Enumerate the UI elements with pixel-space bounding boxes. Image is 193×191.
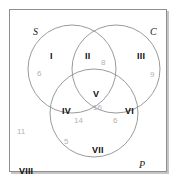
set-label-s: S — [33, 27, 38, 37]
set-label-c: C — [150, 27, 157, 37]
region-label-i: I — [50, 52, 53, 61]
region-label-ii: II — [85, 52, 90, 61]
region-label-vii: VII — [92, 146, 104, 155]
region-count-vi: 6 — [113, 117, 117, 125]
set-label-p: P — [139, 160, 145, 170]
region-label-iii: III — [137, 52, 145, 61]
region-count-vii: 5 — [64, 138, 68, 146]
region-label-viii: VIII — [19, 167, 33, 176]
region-label-vi: VI — [125, 107, 134, 116]
region-count-iii: 9 — [150, 71, 154, 79]
venn-diagram-figure: S C P I 6 II 8 III 9 IV 14 V 16 VI 6 VII… — [0, 0, 193, 191]
region-count-i: 6 — [37, 70, 41, 78]
region-count-ii: 8 — [101, 59, 105, 67]
region-label-iv: IV — [62, 107, 71, 116]
region-count-viii: 11 — [17, 128, 25, 136]
region-label-v: V — [93, 90, 99, 99]
region-count-v: 16 — [93, 104, 102, 112]
region-count-iv: 14 — [74, 117, 83, 125]
